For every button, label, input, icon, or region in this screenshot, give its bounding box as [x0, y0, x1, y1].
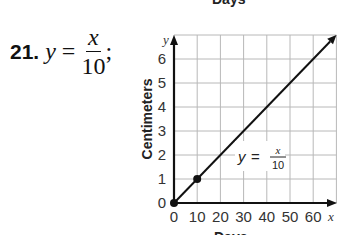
annotation-equals: = [251, 148, 260, 165]
x-tick-label: 20 [212, 208, 229, 225]
y-tick-label: 5 [158, 74, 166, 91]
x-axis-title: Days [214, 229, 247, 235]
y-tick-label: 3 [158, 122, 166, 139]
y-tick-label: 6 [158, 50, 166, 67]
x-tick-labels: 0102030405060 [170, 208, 322, 225]
x-tick-label: 30 [235, 208, 252, 225]
line-chart: 0102030405060 0123456 x y Centimeters y … [0, 0, 342, 235]
y-tick-label: 4 [158, 98, 166, 115]
data-point [170, 199, 178, 207]
y-axis-arrow-icon [170, 35, 178, 45]
x-axis-symbol: x [327, 209, 334, 224]
y-axis-symbol: y [161, 32, 169, 47]
x-axis-arrow-icon [327, 199, 337, 207]
line-annotation: y = x 10 [235, 141, 286, 171]
y-axis-title: Centimeters [139, 78, 155, 159]
x-tick-label: 60 [305, 208, 322, 225]
x-tick-label: 40 [258, 208, 275, 225]
y-tick-label: 1 [158, 170, 166, 187]
x-tick-label: 10 [189, 208, 206, 225]
annotation-denominator: 10 [272, 159, 284, 171]
y-tick-label: 2 [158, 146, 166, 163]
x-tick-label: 50 [282, 208, 299, 225]
x-tick-label: 0 [170, 208, 178, 225]
annotation-numerator: x [275, 144, 281, 156]
y-tick-labels: 0123456 [158, 50, 166, 211]
y-tick-label: 0 [158, 194, 166, 211]
data-point [193, 175, 201, 183]
